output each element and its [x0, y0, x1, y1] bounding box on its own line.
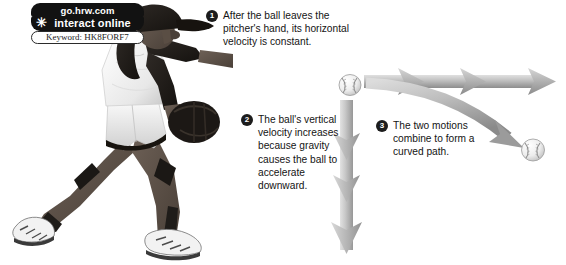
pitcher-face-profile: [170, 30, 180, 39]
callout-text-2: The ball's vertical velocity increases b…: [258, 113, 345, 192]
callout-vertical-velocity: 2 The ball's vertical velocity increases…: [241, 113, 345, 192]
pitcher-glove: [168, 101, 220, 143]
callout-horizontal-velocity: 1 After the ball leaves the pitcher's ha…: [206, 9, 364, 49]
softball-start: [339, 75, 361, 96]
hrw-action-label[interactable]: ✳ interact online: [31, 16, 144, 31]
softball-end: [522, 139, 545, 161]
hrw-action-text: interact online: [54, 17, 131, 29]
hrw-site-label: go.hrw.com: [31, 3, 144, 17]
asterisk-icon: ✳: [36, 17, 48, 29]
callout-text-3: The two motions combine to form a curved…: [393, 119, 494, 159]
callout-badge-2: 2: [241, 114, 253, 126]
hrw-keyword-label: Keyword: HK8FORF7: [31, 31, 144, 44]
callout-badge-1: 1: [206, 10, 218, 22]
hrw-interact-online-badge[interactable]: go.hrw.com ✳ interact online Keyword: HK…: [31, 3, 144, 44]
pitcher-front-shoe: [145, 229, 201, 260]
pitcher-rear-shoe: [13, 217, 55, 246]
callout-curved-path: 3 The two motions combine to form a curv…: [376, 119, 494, 159]
callout-badge-3: 3: [376, 120, 388, 132]
callout-text-1: After the ball leaves the pitcher's hand…: [223, 9, 364, 49]
pitcher-rear-leg: [36, 138, 134, 232]
projectile-motion-figure: go.hrw.com ✳ interact online Keyword: HK…: [0, 0, 566, 265]
